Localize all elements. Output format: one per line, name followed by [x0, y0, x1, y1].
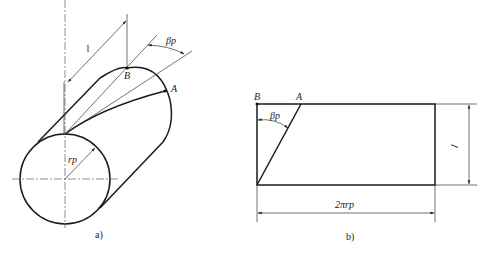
length-label: l	[85, 43, 90, 54]
l-dimension-line	[68, 21, 126, 82]
width-label: 2πrp	[335, 199, 354, 210]
figure-b-caption: b)	[346, 231, 354, 243]
helix-curve	[65, 91, 165, 134]
point-a-label: A	[295, 91, 303, 102]
beta-angle-arc	[148, 45, 184, 54]
cylinder-top-edge	[38, 78, 100, 142]
development-rectangle	[257, 104, 435, 185]
figure-a-caption: a)	[95, 229, 103, 241]
angle-label: βp	[165, 35, 176, 46]
cylinder-back-arc	[100, 67, 171, 142]
point-b-label: B	[124, 70, 130, 81]
height-label: l	[449, 143, 460, 149]
generatrix-line	[65, 35, 157, 134]
figure-a-cylinder: l B A βp rp a)	[12, 0, 192, 241]
figure-b-development: B A βp l 2πrp b)	[254, 91, 477, 243]
point-b-label: B	[254, 91, 260, 102]
radius-label: rp	[68, 154, 77, 165]
point-a-dot	[163, 89, 166, 92]
angle-label: βp	[269, 110, 280, 121]
helix-development-diagram: l B A βp rp a) B A βp l 2πrp b)	[0, 0, 486, 253]
point-a-label: A	[170, 83, 178, 94]
point-b-dot	[256, 103, 259, 106]
